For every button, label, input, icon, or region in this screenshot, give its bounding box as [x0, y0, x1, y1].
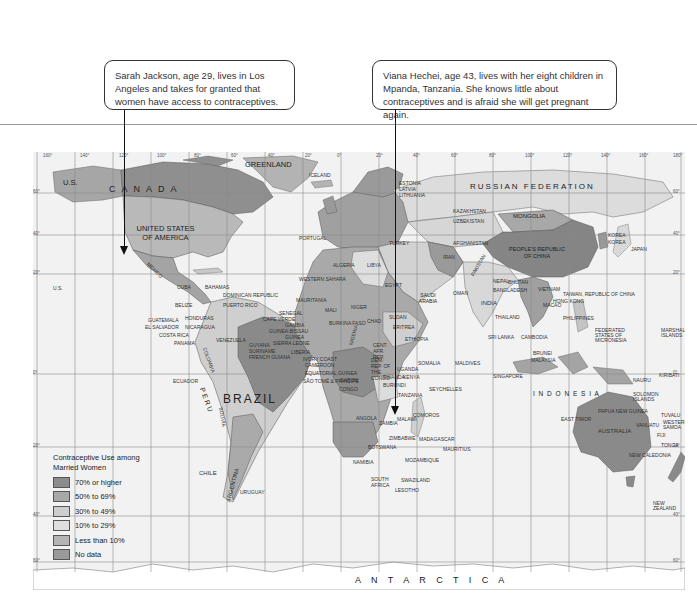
tick-lat-20s-left: 20° — [33, 443, 40, 448]
label-usa: UNITED STATES OF AMERICA — [133, 224, 198, 242]
legend-label: 50% to 69% — [75, 492, 115, 501]
label-fiji: FIJI — [657, 432, 665, 438]
tick-lat-60s-right: 60° — [673, 558, 680, 563]
label-comoros: COMOROS — [413, 412, 439, 418]
tick-lat-40n-left: 40° — [33, 231, 40, 236]
label-taiwan: TAIWAN, REPUBLIC OF CHINA — [563, 291, 635, 297]
label-antarctica: A N T A R C T I C A — [355, 575, 508, 585]
label-bhutan: BHUTAN — [508, 279, 528, 285]
legend-label: 10% to 29% — [75, 521, 115, 530]
label-new-caledonia: NEW CALEDONIA — [629, 452, 671, 458]
legend-swatch — [53, 535, 70, 546]
label-sudan: SUDAN — [389, 314, 407, 320]
tick-lon-100e: 100° — [525, 153, 534, 158]
label-new-zealand: NEW ZEALAND — [653, 501, 675, 511]
label-mali: MALI — [325, 307, 337, 313]
tick-lon-180: 180° — [673, 153, 682, 158]
callout-sarah-text: Sarah Jackson, age 29, lives in Los Ange… — [115, 70, 278, 107]
label-kazakhstan: KAZAKHSTAN — [453, 208, 486, 214]
tick-lon-20w: 20° — [305, 153, 312, 158]
label-botswana: BOTSWANA — [368, 444, 396, 450]
label-iran: IRAN — [443, 254, 455, 260]
label-tanzania: TANZANIA — [398, 392, 422, 398]
label-us-alaska: U.S. — [63, 178, 78, 187]
label-korea-north: KOREA — [608, 232, 626, 238]
label-solomon-islands: SOLOMON ISLANDS — [633, 392, 655, 402]
tick-lon-80w: 80° — [194, 153, 201, 158]
tick-lat-40s-right: 40° — [673, 512, 680, 517]
tick-lon-160w: 160° — [43, 153, 52, 158]
callout-viana-text: Viana Hechei, age 43, lives with her eig… — [383, 70, 603, 120]
label-australia: AUSTRALIA — [598, 428, 631, 434]
label-burkina-faso: BURKINA FASO — [329, 320, 366, 326]
label-mongolia: MONGOLIA — [513, 212, 545, 221]
label-nicaragua: NICARAGUA — [185, 324, 215, 330]
pointer-line-viana — [395, 110, 396, 410]
label-cuba: CUBA — [177, 284, 191, 290]
label-saudi-arabia: SAUDI ARABIA — [417, 292, 439, 304]
label-micronesia: FEDERATED STATES OF MICRONESIA — [595, 328, 635, 343]
label-niger: NIGER — [351, 304, 367, 310]
legend-swatch — [53, 491, 70, 502]
label-algeria: ALGERIA — [333, 262, 355, 268]
label-oman: OMAN — [453, 290, 468, 296]
label-papua-new-guinea: PAPUA NEW GUINEA — [598, 408, 648, 414]
label-chad: CHAD — [367, 318, 381, 324]
tick-lon-140e: 140° — [601, 153, 610, 158]
label-panama: PANAMA — [174, 340, 195, 346]
legend-label: 70% or higher — [75, 478, 122, 487]
tick-lat-60n-right: 60° — [673, 189, 680, 194]
label-brazil: BRAZIL — [223, 392, 277, 406]
legend-item-30-49: 30% to 49% — [53, 504, 153, 519]
label-lesotho: LESOTHO — [395, 487, 419, 493]
label-uruguay: URUGUAY — [240, 489, 265, 495]
label-afghanistan: AFGHANISTAN — [453, 240, 488, 246]
label-gabon: GABON — [340, 377, 358, 383]
label-congo: CONGO — [339, 386, 358, 392]
legend-item-no-data: No data — [53, 548, 153, 563]
label-india: INDIA — [481, 300, 497, 306]
label-ethiopia: ETHIOPIA — [405, 336, 428, 342]
tick-lon-120e: 120° — [563, 153, 572, 158]
label-uganda: UGANDA — [397, 366, 418, 372]
label-cambodia: CAMBODIA — [521, 334, 548, 340]
label-zimbabwe: ZIMBABWE — [389, 435, 416, 441]
label-egypt: EGYPT — [385, 282, 402, 288]
legend-label: No data — [75, 550, 101, 559]
label-kenya: KENYA — [403, 374, 420, 380]
label-canada: C A N A D A — [109, 184, 179, 194]
legend-swatch — [53, 549, 70, 560]
label-seychelles: SEYCHELLES — [429, 386, 462, 392]
tick-lon-140w: 140° — [80, 153, 89, 158]
label-south-africa: SOUTH AFRICA — [371, 476, 395, 488]
label-marshall-islands: MARSHALL ISLANDS — [661, 328, 683, 338]
tick-lon-0: 0° — [337, 153, 341, 158]
label-iceland: ICELAND — [309, 172, 331, 178]
label-mozambique: MOZAMBIQUE — [405, 457, 439, 463]
label-puerto-rico: PUERTO RICO — [223, 302, 258, 308]
label-portugal: PORTUGAL — [299, 235, 326, 241]
label-nauru: NAURU — [633, 377, 651, 383]
label-french-guiana: FRENCH GUIANA — [249, 354, 290, 360]
label-vanuatu: VANUATU — [636, 422, 659, 428]
tick-lat-40n-right: 40° — [673, 231, 680, 236]
label-equatorial-guinea: EQUATORIAL GUINEA — [305, 370, 357, 376]
label-greenland: GREENLAND — [245, 160, 292, 169]
label-turkey: TURKEY — [389, 240, 409, 246]
label-angola: ANGOLA — [356, 415, 377, 421]
label-thailand: THAILAND — [495, 314, 520, 320]
label-sri-lanka: SRI LANKA — [488, 334, 514, 340]
label-swaziland: SWAZILAND — [401, 477, 430, 483]
label-madagascar: MADAGASCAR — [419, 436, 455, 442]
tick-lat-20s-right: 20° — [673, 443, 680, 448]
label-uzbekistan: UZBEKISTAN — [453, 218, 484, 224]
label-brunei: BRUNEI — [533, 350, 552, 356]
label-el-salvador: EL SALVADOR — [145, 324, 179, 330]
tick-lat-40s-left: 40° — [33, 512, 40, 517]
callout-viana-hechei: Viana Hechei, age 43, lives with her eig… — [372, 60, 617, 110]
tick-lon-60w: 60° — [231, 153, 238, 158]
label-east-timor: EAST TIMOR — [561, 416, 591, 422]
label-singapore: SINGAPORE — [493, 373, 523, 379]
tick-lat-60s-left: 60° — [33, 558, 40, 563]
legend-item-70-plus: 70% or higher — [53, 475, 153, 490]
